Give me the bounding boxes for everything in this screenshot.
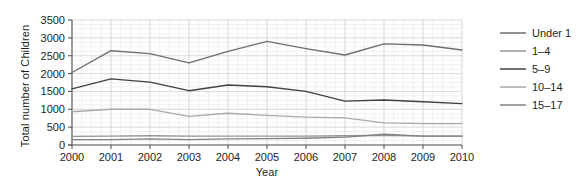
legend-label-3: 10–14 bbox=[532, 81, 563, 93]
x-axis-tick-labels: 2000200120022003200420052006200720082009… bbox=[60, 151, 474, 163]
chart-legend: Under 11–45–910–1415–17 bbox=[500, 27, 571, 111]
y-tick-label: 3000 bbox=[41, 32, 65, 44]
y-tick-label: 1500 bbox=[41, 85, 65, 97]
x-tick-label: 2005 bbox=[255, 151, 279, 163]
x-tick-label: 2010 bbox=[450, 151, 474, 163]
y-tick-label: 3500 bbox=[41, 14, 65, 26]
y-tick-label: 2000 bbox=[41, 68, 65, 80]
y-tick-label: 0 bbox=[59, 139, 65, 151]
x-axis-title: Year bbox=[197, 166, 337, 178]
x-tick-label: 2001 bbox=[99, 151, 123, 163]
x-tick-label: 2008 bbox=[372, 151, 396, 163]
legend-label-0: Under 1 bbox=[532, 27, 571, 39]
x-tick-label: 2002 bbox=[138, 151, 162, 163]
legend-label-4: 15–17 bbox=[532, 99, 563, 111]
legend-label-2: 5–9 bbox=[532, 63, 550, 75]
y-tick-label: 500 bbox=[47, 121, 65, 133]
y-tick-label: 2500 bbox=[41, 50, 65, 62]
y-tick-label: 1000 bbox=[41, 103, 65, 115]
legend-label-1: 1–4 bbox=[532, 45, 550, 57]
x-tick-label: 2000 bbox=[60, 151, 84, 163]
line-chart-figure: 0500100015002000250030003500 20002001200… bbox=[0, 0, 584, 191]
x-tick-label: 2009 bbox=[411, 151, 435, 163]
x-tick-label: 2007 bbox=[333, 151, 357, 163]
y-axis-title: Total number of Children bbox=[19, 6, 31, 166]
x-tick-label: 2004 bbox=[216, 151, 240, 163]
y-axis-tick-labels: 0500100015002000250030003500 bbox=[41, 14, 65, 151]
x-tick-label: 2006 bbox=[294, 151, 318, 163]
chart-canvas: 0500100015002000250030003500 20002001200… bbox=[0, 0, 584, 191]
x-tick-label: 2003 bbox=[177, 151, 201, 163]
